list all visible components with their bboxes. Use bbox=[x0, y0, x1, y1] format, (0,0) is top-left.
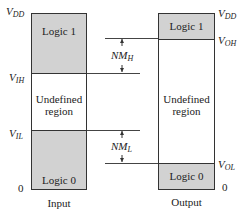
output-voh-line bbox=[159, 39, 214, 40]
output-voh-label: VOH bbox=[218, 34, 236, 50]
output-zero-label: 0 bbox=[222, 181, 228, 193]
output-logic1-label: Logic 1 bbox=[159, 20, 214, 32]
output-vol-label: VOL bbox=[218, 158, 235, 174]
output-undefined-label-1: Undefined bbox=[159, 93, 214, 105]
output-caption: Output bbox=[158, 196, 215, 208]
nmh-bottom-line bbox=[87, 73, 140, 74]
input-logic1-label: Logic 1 bbox=[32, 25, 86, 37]
input-undefined-label-1: Undefined bbox=[32, 93, 86, 105]
output-logic0-label: Logic 0 bbox=[159, 170, 214, 182]
input-logic1-zone bbox=[32, 14, 86, 73]
input-vdd-label: VDD bbox=[6, 5, 24, 21]
input-caption: Input bbox=[31, 197, 87, 209]
input-vil-line bbox=[32, 130, 86, 131]
nmh-label: NMH bbox=[111, 49, 133, 65]
input-zero-label: 0 bbox=[18, 182, 24, 194]
input-logic0-label: Logic 0 bbox=[32, 174, 86, 186]
output-undefined-label-2: region bbox=[159, 105, 214, 117]
input-vih-line bbox=[32, 73, 86, 74]
nmh-top-line bbox=[105, 38, 158, 39]
input-vil-label: VIL bbox=[9, 127, 23, 143]
nml-label: NML bbox=[111, 140, 132, 156]
output-bar: Logic 1 Undefined region Logic 0 bbox=[158, 13, 215, 190]
input-bar: Logic 1 Undefined region Logic 0 bbox=[31, 13, 87, 190]
nml-bottom-line bbox=[105, 163, 158, 164]
output-vol-line bbox=[159, 163, 214, 164]
input-vih-label: VIH bbox=[9, 71, 24, 87]
input-undefined-label-2: region bbox=[32, 105, 86, 117]
output-vdd-label: VDD bbox=[218, 7, 236, 23]
nml-top-line bbox=[87, 130, 140, 131]
